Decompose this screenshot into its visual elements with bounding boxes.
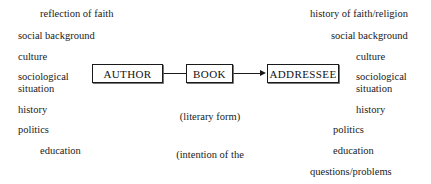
left-item-sociological: sociological bbox=[18, 71, 69, 84]
right-item-sociological: sociological bbox=[356, 71, 407, 84]
right-item-social-background: social background bbox=[331, 30, 408, 43]
left-item-politics: politics bbox=[18, 124, 49, 137]
node-addressee[interactable]: ADDRESSEE bbox=[267, 64, 339, 83]
node-author[interactable]: AUTHOR bbox=[92, 64, 163, 83]
left-item-history: history bbox=[18, 104, 47, 117]
right-item-history: history bbox=[356, 104, 385, 117]
node-author-label: AUTHOR bbox=[103, 68, 151, 80]
right-item-education: education bbox=[333, 145, 374, 158]
node-book[interactable]: BOOK bbox=[186, 64, 233, 83]
book-caption: (literary form) (intention of the author… bbox=[145, 86, 275, 184]
left-item-education: education bbox=[40, 145, 81, 158]
book-caption-line-1: (literary form) bbox=[145, 111, 275, 124]
edge-book-to-addressee bbox=[233, 73, 261, 74]
arrow-head-icon bbox=[260, 70, 266, 76]
node-book-label: BOOK bbox=[193, 68, 226, 80]
right-item-politics: politics bbox=[333, 124, 364, 137]
node-addressee-label: ADDRESSEE bbox=[269, 68, 336, 80]
book-caption-line-2: (intention of the bbox=[145, 149, 275, 162]
edge-author-to-book bbox=[163, 73, 186, 74]
right-item-situation: situation bbox=[356, 83, 392, 96]
left-item-reflection-of-faith: reflection of faith bbox=[40, 8, 113, 21]
left-item-situation: situation bbox=[18, 83, 54, 96]
right-item-questions-problems: questions/problems bbox=[310, 166, 392, 179]
right-item-culture: culture bbox=[356, 51, 385, 64]
right-item-history-of-faith-religion: history of faith/religion bbox=[310, 8, 408, 21]
left-item-social-background: social background bbox=[18, 30, 95, 43]
left-item-culture: culture bbox=[18, 51, 47, 64]
diagram-canvas: reflection of faith social background cu… bbox=[0, 0, 431, 184]
